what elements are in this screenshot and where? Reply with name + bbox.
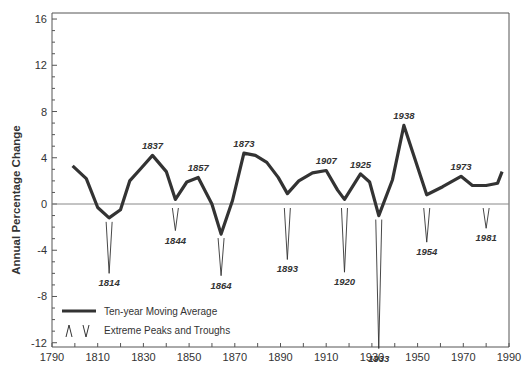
trough-label: 1814: [99, 277, 121, 288]
trough-marker: [483, 208, 489, 228]
peak-label: 1907: [316, 155, 338, 166]
peak-label: 1925: [350, 159, 372, 170]
x-tick-label: 1890: [268, 351, 292, 363]
y-tick-label: 16: [35, 13, 47, 25]
trough-marker: [106, 222, 112, 273]
peak-label: 1973: [450, 161, 472, 172]
y-axis: 1612840-4-8-12: [31, 13, 57, 349]
trough-marker: [218, 238, 224, 276]
x-tick-label: 1790: [40, 351, 64, 363]
y-tick-label: 8: [41, 106, 47, 118]
moving-average-line: [73, 125, 503, 234]
legend: Ten-year Moving Average Extreme Peaks an…: [62, 306, 230, 337]
peak-label: 1857: [188, 162, 210, 173]
x-tick-label: 1830: [131, 351, 155, 363]
trough-label: 1954: [416, 246, 438, 257]
trough-label: 1920: [334, 276, 356, 287]
peak-label: 1837: [142, 140, 164, 151]
y-tick-label: 4: [41, 152, 47, 164]
trough-label: 1864: [211, 280, 233, 291]
trough-markers: 18141844186418931920193319541981: [99, 208, 497, 364]
x-axis: 1790181018301850187018901910193019501970…: [40, 343, 521, 363]
legend-label-average: Ten-year Moving Average: [104, 306, 218, 317]
trough-marker: [284, 208, 290, 259]
x-tick-label: 1810: [85, 351, 109, 363]
peak-label: 1873: [233, 138, 255, 149]
peak-label: 1938: [393, 110, 415, 121]
trough-label: 1893: [277, 263, 299, 274]
y-tick-label: 0: [41, 198, 47, 210]
x-tick-label: 1970: [451, 351, 475, 363]
y-tick-label: -4: [37, 244, 47, 256]
trough-label: 1981: [476, 232, 497, 243]
x-tick-label: 1950: [405, 351, 429, 363]
peak-labels: 1837185718731907192519381973: [142, 110, 472, 173]
y-tick-label: 12: [35, 59, 47, 71]
y-tick-label: -8: [37, 290, 47, 302]
trough-marker: [424, 208, 430, 242]
trough-marker: [376, 220, 382, 349]
x-tick-label: 1870: [223, 351, 247, 363]
x-tick-label: 1910: [314, 351, 338, 363]
trough-marker: [341, 208, 347, 272]
y-tick-label: -12: [31, 337, 47, 349]
chart-canvas: 1612840-4-8-12 1790181018301850187018901…: [0, 0, 531, 379]
x-tick-label: 1990: [497, 351, 521, 363]
y-axis-label: Annual Percentage Change: [10, 125, 22, 275]
peak-trough-swatch-icon: [66, 325, 89, 337]
x-tick-label: 1850: [177, 351, 201, 363]
trough-label: 1844: [165, 235, 187, 246]
legend-label-peaks: Extreme Peaks and Troughs: [104, 325, 230, 336]
trough-marker: [172, 208, 178, 231]
trough-label: 1933: [368, 353, 390, 364]
